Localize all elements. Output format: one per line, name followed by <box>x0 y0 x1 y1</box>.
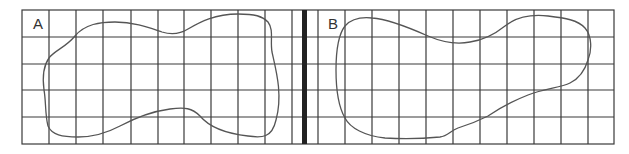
panel-b-label: B <box>328 15 338 32</box>
shape-a-outline <box>43 14 279 137</box>
grid-lines <box>22 10 614 144</box>
panel-divider <box>302 10 307 144</box>
grid-figure <box>0 0 629 154</box>
shape-b-outline <box>336 15 591 138</box>
panel-a-label: A <box>33 15 43 32</box>
